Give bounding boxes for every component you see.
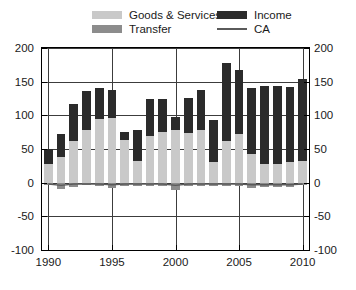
bar-segment-income: [235, 70, 244, 135]
y-axis-tick-right: [304, 48, 309, 49]
bar-segment-income: [184, 98, 193, 133]
x-axis-label: 2010: [283, 256, 323, 268]
legend-swatch-goods-services: [92, 11, 122, 19]
bar-segment-income: [260, 86, 269, 164]
bar-segment-income: [44, 149, 53, 164]
x-axis-label: 2005: [219, 256, 259, 268]
bar-segment-transfer: [82, 183, 91, 186]
y-axis-tick-left: [42, 216, 47, 217]
y-axis-tick-left: [42, 250, 47, 251]
bar-segment-income: [120, 132, 129, 140]
bar-segment-income: [69, 104, 78, 141]
bar-segment-goods-services: [222, 141, 231, 183]
y-axis-label-right: 150: [314, 76, 348, 88]
bar-segment-goods-services: [260, 164, 269, 183]
bar-segment-income: [95, 88, 104, 118]
y-axis-tick-left: [42, 149, 47, 150]
bar-segment-goods-services: [286, 162, 295, 182]
y-axis-label-right: -50: [314, 210, 348, 222]
y-axis-tick-left: [42, 48, 47, 49]
y-axis-label-right: -100: [314, 244, 348, 256]
y-axis-label-left: -100: [0, 244, 34, 256]
bar-segment-goods-services: [158, 132, 167, 183]
bar-segment-transfer: [158, 183, 167, 186]
legend-item-income: Income: [217, 8, 292, 22]
bar-segment-income: [273, 86, 282, 164]
bar-segment-transfer: [273, 183, 282, 188]
bar-segment-goods-services: [298, 161, 307, 183]
y-axis-label-left: 150: [0, 76, 34, 88]
y-axis-tick-left: [42, 115, 47, 116]
bar-segment-transfer: [222, 183, 231, 186]
y-axis-tick-left: [42, 82, 47, 83]
y-axis-label-left: 50: [0, 143, 34, 155]
legend-swatch-ca: [217, 25, 247, 33]
legend-swatch-income: [217, 11, 247, 19]
bar-segment-goods-services: [171, 130, 180, 183]
legend-item-goods-services: Goods & Services: [92, 8, 221, 22]
bar-segment-goods-services: [44, 164, 53, 183]
y-axis-tick-right: [304, 149, 309, 150]
bar-segment-transfer: [108, 183, 117, 188]
bar-segment-transfer: [120, 183, 129, 186]
bar-segment-income: [146, 99, 155, 136]
x-axis-tick: [48, 245, 49, 250]
bar-segment-transfer: [197, 183, 206, 186]
bar-segment-transfer: [146, 183, 155, 186]
y-axis-label-left: -50: [0, 210, 34, 222]
x-axis-tick: [176, 245, 177, 250]
bar-segment-income: [171, 117, 180, 130]
bar-segment-transfer: [171, 183, 180, 190]
bar-segment-goods-services: [133, 161, 142, 183]
y-axis-tick-left: [42, 183, 47, 184]
bar-segment-goods-services: [184, 133, 193, 183]
x-axis-label: 1995: [92, 256, 132, 268]
bar-segment-transfer: [95, 183, 104, 186]
legend-item-ca: CA: [217, 22, 270, 36]
bar-segment-goods-services: [57, 157, 66, 183]
x-axis-label: 2000: [156, 256, 196, 268]
legend-label-goods-services: Goods & Services: [129, 9, 221, 21]
x-axis-tick: [239, 245, 240, 250]
bar-segment-income: [209, 120, 218, 162]
bar-segment-transfer: [69, 183, 78, 187]
y-axis-tick-right: [304, 115, 309, 116]
legend-label-income: Income: [254, 9, 292, 21]
x-axis-label: 1990: [28, 256, 68, 268]
bar-segment-goods-services: [247, 154, 256, 182]
y-axis-label-left: 0: [0, 177, 34, 189]
legend-label-transfer: Transfer: [129, 23, 171, 35]
y-axis-tick-right: [304, 250, 309, 251]
x-axis-tick: [112, 245, 113, 250]
bar-segment-goods-services: [235, 134, 244, 182]
bar-segment-transfer: [286, 183, 295, 188]
legend-swatch-transfer: [92, 25, 122, 33]
bar-segment-goods-services: [95, 119, 104, 183]
bar-segment-goods-services: [120, 140, 129, 182]
x-axis-tick: [303, 245, 304, 250]
bar-segment-goods-services: [273, 164, 282, 183]
y-axis-tick-right: [304, 216, 309, 217]
bar-segment-income: [108, 90, 117, 118]
y-axis-label-right: 100: [314, 109, 348, 121]
bar-segment-income: [158, 99, 167, 133]
chart-root: Goods & Services Transfer Income CA -100…: [0, 0, 356, 290]
bar-segment-income: [82, 91, 91, 130]
bar-segment-income: [247, 88, 256, 154]
legend-item-transfer: Transfer: [92, 22, 171, 36]
y-axis-tick-right: [304, 82, 309, 83]
bar-segment-goods-services: [69, 141, 78, 183]
bar-segment-goods-services: [197, 130, 206, 183]
bar-segment-transfer: [260, 183, 269, 188]
bar-segment-income: [222, 63, 231, 141]
y-axis-label-left: 200: [0, 42, 34, 54]
bar-segment-goods-services: [108, 118, 117, 183]
bar-segment-transfer: [184, 183, 193, 186]
bar-segment-goods-services: [82, 130, 91, 183]
bar-segment-goods-services: [146, 136, 155, 183]
bar-segment-transfer: [247, 183, 256, 188]
y-axis-label-right: 50: [314, 143, 348, 155]
bar-segment-goods-services: [209, 162, 218, 182]
y-axis-label-left: 100: [0, 109, 34, 121]
bar-segment-transfer: [57, 183, 66, 189]
